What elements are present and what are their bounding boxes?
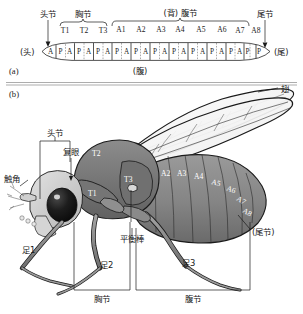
leg-label-2: 足2 bbox=[100, 260, 113, 270]
compartment-letter-A: A bbox=[48, 48, 54, 56]
body-segment-T1: T1 bbox=[88, 189, 97, 198]
callout-label-compound-eye: 复眼 bbox=[63, 147, 80, 157]
compartment-letter-A: A bbox=[105, 48, 111, 56]
compartment-letter-P: P bbox=[153, 48, 157, 56]
compartment-letter-P: P bbox=[59, 48, 63, 56]
leg-label-3: 足3 bbox=[182, 258, 195, 268]
panel-a-segment-T3: T3 bbox=[99, 26, 108, 35]
compartment-letter-A: A bbox=[200, 48, 206, 56]
panel-a-bracket-label-head: 头节 bbox=[40, 9, 56, 19]
panel-b-id: (b) bbox=[9, 89, 19, 99]
panel-a-bracket-label-telson: 尾节 bbox=[257, 9, 273, 19]
bottom-bracket-label-abdomen: 腹节 bbox=[185, 294, 201, 304]
panel-a-bracket-label-thorax: 胸节 bbox=[75, 9, 91, 19]
compartment-letter-A: A bbox=[67, 48, 73, 56]
compound-eye-shape bbox=[47, 188, 77, 222]
panel-a-segment-A7: A7 bbox=[235, 26, 244, 35]
callout-label-head-segment: 头节 bbox=[47, 128, 63, 138]
compartment-letter-P: P bbox=[246, 48, 250, 56]
panel-a-segment-A6: A6 bbox=[217, 25, 226, 34]
compartment-letter-P: P bbox=[172, 48, 176, 56]
compartment-letter-P: P bbox=[115, 48, 119, 56]
compartment-letter-A: A bbox=[181, 48, 187, 56]
callout-label-antenna: 触角 bbox=[4, 174, 20, 184]
figure-drosophila-segmentation: 头节 胸节 (背) 腹节 尾节 T1 T2 T3 A1 A2 A3 A4 A5 … bbox=[0, 0, 303, 314]
compartment-letter-P: P bbox=[229, 48, 233, 56]
callout-label-wing: 翅 bbox=[281, 84, 290, 94]
callout-label-telson: (尾节) bbox=[252, 227, 275, 237]
panel-a-segment-A2: A2 bbox=[136, 25, 145, 34]
compartment-letter-A: A bbox=[219, 48, 225, 56]
panel-a-segment-T2: T2 bbox=[80, 26, 89, 35]
compartment-letter-A: A bbox=[162, 48, 168, 56]
panel-a-posterior-label: (尾) bbox=[274, 47, 289, 57]
panel-a-bracket-label-abdomen: (背) 腹节 bbox=[163, 8, 196, 18]
body-segment-A3: A3 bbox=[177, 169, 186, 178]
embryo-compartment-letters: A P A P A P A P A P A P A P A P A P A P bbox=[48, 48, 261, 56]
panel-a-segment-A3: A3 bbox=[156, 25, 165, 34]
panel-a-anterior-label: (头) bbox=[20, 47, 35, 57]
body-segment-A4: A4 bbox=[194, 172, 203, 181]
panel-a-segment-A5: A5 bbox=[196, 25, 205, 34]
leg-label-1: 足1 bbox=[22, 245, 35, 255]
body-segment-T2: T2 bbox=[92, 149, 101, 158]
compartment-letter-A: A bbox=[124, 48, 130, 56]
compartment-letter-A: A bbox=[86, 48, 92, 56]
eye-highlight bbox=[54, 195, 60, 200]
panel-a-segment-A8: A8 bbox=[251, 26, 260, 35]
compartment-letter-P: P bbox=[191, 48, 195, 56]
compartment-letter-P: P bbox=[257, 48, 261, 56]
compartment-letter-A: A bbox=[237, 48, 243, 56]
compartment-letter-A: A bbox=[143, 48, 149, 56]
compartment-letter-P: P bbox=[77, 48, 81, 56]
body-segment-T3: T3 bbox=[124, 175, 133, 184]
body-segment-A2: A2 bbox=[161, 169, 170, 178]
compartment-letter-P: P bbox=[96, 48, 100, 56]
panel-a-id: (a) bbox=[9, 66, 19, 76]
panel-a-segment-T1: T1 bbox=[61, 26, 70, 35]
bottom-bracket-label-thorax: 胸节 bbox=[94, 294, 110, 304]
compartment-letter-P: P bbox=[210, 48, 214, 56]
panel-a-ventral-label: (腹) bbox=[133, 66, 148, 76]
panel-a-segment-A4: A4 bbox=[175, 25, 184, 34]
panel-a-segment-A1: A1 bbox=[116, 25, 125, 34]
compartment-letter-P: P bbox=[134, 48, 138, 56]
callout-label-haltere: 平衡棒 bbox=[120, 234, 145, 244]
